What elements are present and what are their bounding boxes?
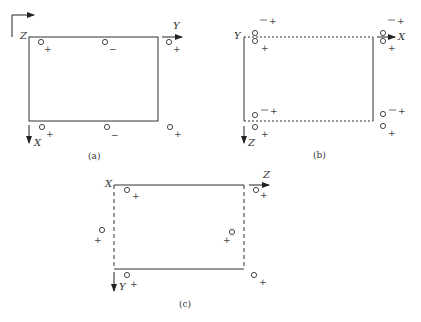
svg-text:+: + bbox=[130, 279, 138, 289]
svg-text:+: + bbox=[94, 235, 102, 245]
svg-text:+: + bbox=[223, 235, 231, 245]
atom-marker-pair: + + bbox=[380, 106, 405, 138]
svg-text:+: + bbox=[132, 191, 140, 201]
axis-label-origin-c: X bbox=[104, 178, 113, 189]
atom-marker: + bbox=[253, 187, 267, 200]
svg-text:+: + bbox=[388, 43, 396, 53]
svg-text:+: + bbox=[260, 190, 268, 200]
panel-b: Y X Z + + + + + bbox=[234, 16, 406, 160]
svg-text:+: + bbox=[269, 16, 277, 26]
atom-marker: + bbox=[167, 124, 181, 139]
svg-text:+: + bbox=[46, 129, 54, 139]
caption-b: (b) bbox=[313, 150, 326, 160]
svg-text:+: + bbox=[174, 129, 182, 139]
atom-marker: + bbox=[38, 39, 51, 54]
svg-text:+: + bbox=[261, 43, 269, 53]
svg-text:+: + bbox=[261, 129, 269, 139]
panel-a: Z Y X + − + + − + (a) bbox=[12, 15, 182, 161]
svg-text:+: + bbox=[397, 16, 405, 26]
panel-c: X Z Y + + + + + + (c) bbox=[94, 169, 271, 309]
svg-text:+: + bbox=[388, 128, 396, 138]
axis-label-vertical-a: X bbox=[33, 137, 42, 148]
atom-marker: + bbox=[251, 272, 266, 287]
svg-text:+: + bbox=[259, 277, 267, 287]
atom-marker: − bbox=[102, 39, 116, 54]
svg-text:+: + bbox=[173, 44, 181, 54]
axis-label-horizontal-c: Z bbox=[262, 169, 271, 180]
svg-text:−: − bbox=[111, 130, 119, 140]
svg-text:+: + bbox=[398, 106, 406, 116]
atom-marker: + bbox=[124, 187, 139, 201]
symmetry-diagram: Z Y X + − + + − + (a) bbox=[0, 0, 421, 322]
caption-a: (a) bbox=[88, 151, 100, 161]
atom-marker: + bbox=[39, 124, 53, 139]
atom-marker-pair: + + bbox=[252, 16, 276, 53]
atom-marker: + bbox=[124, 272, 137, 289]
axis-label-vertical-c: Y bbox=[119, 281, 127, 292]
atom-marker: + bbox=[223, 229, 235, 245]
atom-marker: − bbox=[104, 124, 118, 140]
axis-label-vertical-b: Z bbox=[247, 137, 256, 148]
axis-label-origin-a: Z bbox=[19, 30, 28, 41]
axis-label-origin-b: Y bbox=[234, 30, 242, 41]
svg-text:+: + bbox=[44, 44, 52, 54]
caption-c: (c) bbox=[179, 299, 191, 309]
atom-marker: + bbox=[94, 227, 105, 245]
svg-text:+: + bbox=[270, 106, 278, 116]
svg-text:−: − bbox=[109, 44, 117, 54]
axis-label-horizontal-b: X bbox=[397, 31, 406, 42]
atom-marker-pair: + + bbox=[252, 106, 277, 139]
axis-label-horizontal-a: Y bbox=[173, 20, 181, 31]
atom-marker: + bbox=[166, 39, 180, 54]
